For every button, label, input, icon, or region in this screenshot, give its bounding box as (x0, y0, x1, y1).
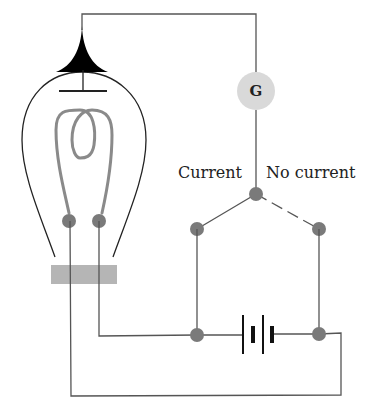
switch-arm-current (197, 194, 256, 229)
bulb-tip-icon (56, 26, 108, 72)
top-wire (82, 14, 256, 72)
battery-icon (243, 315, 272, 354)
filament-icon (56, 110, 112, 213)
battery-node-right (312, 327, 326, 341)
galvanometer-label: G (237, 82, 275, 100)
no-current-label: No current (266, 164, 355, 182)
bulb-base (51, 265, 117, 284)
battery-node-left (190, 328, 204, 342)
filament-pin-left (62, 214, 76, 228)
switch-pivot-node (249, 187, 263, 201)
switch-arm-no-current (256, 194, 319, 229)
wire-left-pin-bottom (70, 221, 341, 396)
circuit-diagram (0, 0, 390, 416)
vacuum-bulb-outline (22, 72, 146, 257)
current-label: Current (178, 164, 242, 182)
